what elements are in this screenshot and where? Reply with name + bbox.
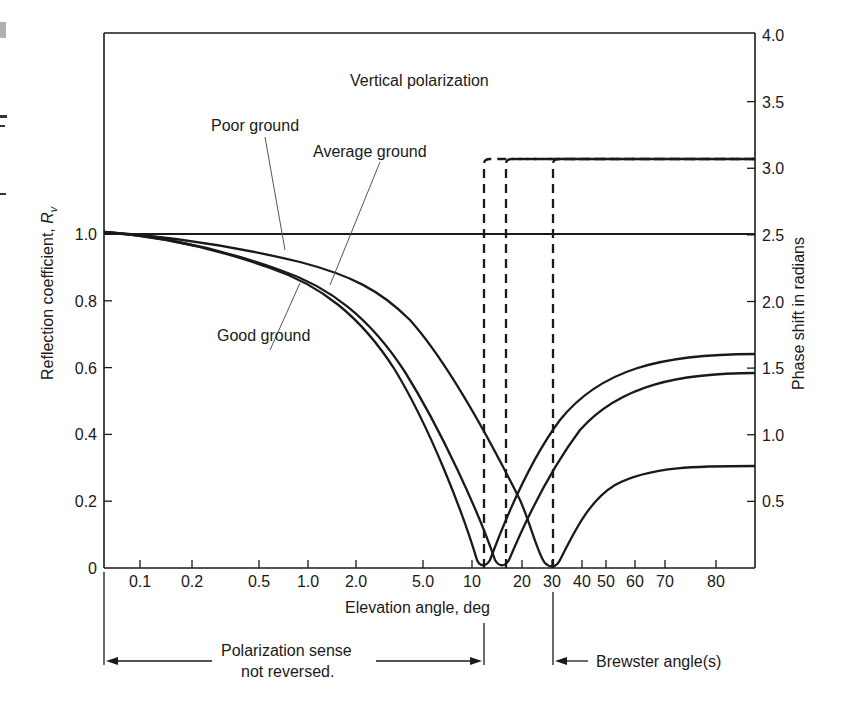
plot-frame (104, 33, 755, 568)
y-right-tick-label: 3.0 (762, 160, 784, 177)
y-right-tick-label: 1.5 (762, 360, 784, 377)
label-average-ground: Average ground (313, 143, 427, 160)
brewster-angle-annotation: Brewster angle(s) (553, 592, 721, 670)
label-poor-ground: Poor ground (211, 117, 299, 134)
x-tick-label: 0.1 (129, 573, 151, 590)
x-tick-label: 2.0 (345, 573, 367, 590)
x-tick-label: 40 (573, 573, 591, 590)
x-tick-label: 0.5 (248, 573, 270, 590)
label-good-ground: Good ground (217, 327, 310, 344)
y-right-tick-label: 0.5 (762, 493, 784, 510)
phase-shift-curves (484, 159, 755, 568)
scan-artifacts (0, 22, 7, 195)
phase-good-ground (484, 159, 755, 568)
polarization-sense-line2: not reversed. (241, 663, 334, 680)
x-axis-label: Elevation angle, deg (345, 599, 490, 616)
y-right-tick-label: 2.0 (762, 294, 784, 311)
y-axis-left-ticks: 00.20.40.60.81.0 (75, 226, 112, 577)
x-tick-label: 70 (656, 573, 674, 590)
curve-poor-ground (104, 232, 755, 566)
polarization-sense-line1: Polarization sense (221, 642, 352, 659)
y-right-tick-label: 1.0 (762, 427, 784, 444)
x-tick-label: 5.0 (412, 573, 434, 590)
y-left-tick-label: 0.4 (75, 426, 97, 443)
brewster-angle-label: Brewster angle(s) (596, 653, 721, 670)
y-left-tick-label: 1.0 (75, 226, 97, 243)
x-tick-label: 1.0 (297, 573, 319, 590)
y-axis-right-label: Phase shift in radians (790, 237, 807, 390)
y-axis-left-label: Reflection coefficient, Rv (39, 205, 59, 380)
curve-average-ground (104, 232, 755, 565)
y-axis-right-ticks: 0.51.01.52.02.53.03.54.0 (747, 27, 784, 510)
x-tick-label: 60 (626, 573, 644, 590)
x-tick-label: 50 (597, 573, 615, 590)
y-right-tick-label: 4.0 (762, 27, 784, 44)
y-left-tick-label: 0.8 (75, 293, 97, 310)
label-leaders (265, 137, 380, 350)
y-left-tick-label: 0 (88, 560, 97, 577)
y-left-tick-label: 0.6 (75, 360, 97, 377)
y-right-tick-label: 2.5 (762, 227, 784, 244)
curve-good-ground (104, 232, 755, 565)
y-left-tick-label: 0.2 (75, 493, 97, 510)
leader-average-ground (330, 162, 380, 285)
x-tick-label: 20 (513, 573, 531, 590)
phase-average-ground (506, 159, 755, 568)
reflection-coefficient-chart: 00.20.40.60.81.0 0.51.01.52.02.53.03.54.… (0, 0, 854, 713)
x-axis-ticks: 0.10.20.51.02.05.01020304050607080 (129, 560, 725, 590)
y-right-tick-label: 3.5 (762, 94, 784, 111)
x-tick-label: 80 (707, 573, 725, 590)
reflection-curves (104, 232, 755, 566)
x-tick-label: 0.2 (181, 573, 203, 590)
x-tick-label: 30 (543, 573, 561, 590)
x-tick-label: 10 (463, 573, 481, 590)
chart-title: Vertical polarization (350, 72, 489, 89)
